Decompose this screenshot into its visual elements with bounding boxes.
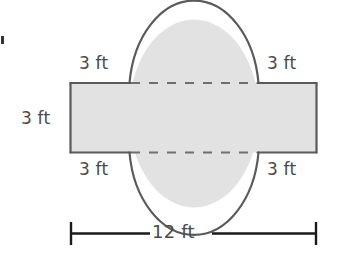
edge-artifact-mark: [1, 36, 4, 44]
shape-fill-group: [71, 20, 317, 208]
label-top-left-segment: 3 ft: [79, 55, 108, 72]
rectangle-fill: [71, 83, 317, 153]
label-bottom-right-segment: 3 ft: [267, 161, 296, 178]
label-bottom-left-segment: 3 ft: [79, 161, 108, 178]
label-top-right-segment: 3 ft: [267, 55, 296, 72]
figure-container: 3 ft 3 ft 3 ft 3 ft 3 ft 12 ft: [0, 0, 337, 261]
label-rectangle-height: 3 ft: [21, 110, 50, 127]
label-overall-width: 12 ft: [152, 223, 195, 241]
